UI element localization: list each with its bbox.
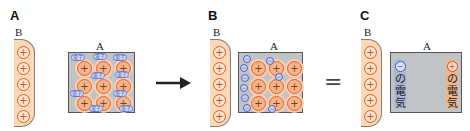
positive-charge-icon: +	[287, 61, 302, 76]
conductor-a-label: A	[270, 40, 278, 52]
electron-icon: −	[241, 94, 249, 102]
positive-charge-icon: +	[17, 94, 30, 107]
free-electron-icon: 電子	[71, 54, 85, 61]
conductor-b-label: B	[364, 26, 371, 38]
positive-charge-icon: +	[17, 78, 30, 91]
conductor-a: + + + + + + + + + − − − − − − − − −	[238, 52, 303, 113]
positive-charge-icon: +	[77, 61, 92, 76]
conductor-a-label: A	[96, 40, 104, 52]
free-electron-icon: 電子	[91, 72, 105, 79]
positive-charge-icon: +	[364, 94, 377, 107]
conductor-a-label: A	[423, 40, 431, 52]
positive-charge-icon: +	[251, 96, 266, 111]
positive-charge-region: + の 電 気	[446, 59, 458, 109]
equals-sign: =	[324, 73, 342, 91]
positive-sign-icon: +	[447, 61, 458, 72]
positive-charge-icon: +	[17, 46, 30, 59]
positive-charge-icon: +	[287, 96, 302, 111]
positive-charge-icon: +	[213, 110, 226, 123]
free-electron-icon: 電子	[119, 105, 133, 112]
conductor-a: + + + + + + + + + 電子 電子 電子 電子 電子 電子 電子 電…	[68, 52, 135, 113]
free-electron-icon: 電子	[113, 54, 127, 61]
positive-text: 気	[447, 98, 458, 110]
positive-charge-icon: +	[364, 78, 377, 91]
positive-charge-icon: +	[251, 61, 266, 76]
conductor-b: + + + + +	[361, 39, 382, 127]
positive-charge-icon: +	[17, 110, 30, 123]
electron-icon: −	[240, 64, 248, 72]
negative-text: 気	[395, 98, 406, 110]
positive-charge-icon: +	[213, 94, 226, 107]
free-electron-icon: 電子	[89, 105, 103, 112]
positive-charge-icon: +	[251, 79, 266, 94]
panel-label-a: A	[10, 8, 19, 23]
positive-charge-icon: +	[287, 79, 302, 94]
electron-icon: −	[243, 55, 251, 63]
conductor-b: + + + + +	[210, 39, 231, 127]
panel-label-c: C	[360, 8, 369, 23]
positive-charge-icon: +	[96, 79, 111, 94]
electron-icon: −	[266, 57, 274, 65]
positive-charge-icon: +	[364, 46, 377, 59]
positive-charge-icon: +	[17, 62, 30, 75]
conductor-b-label: B	[15, 26, 22, 38]
electron-icon: −	[243, 104, 251, 112]
electron-icon: −	[241, 74, 249, 82]
negative-charge-region: − の 電 気	[394, 59, 406, 109]
free-electron-icon: 電子	[113, 90, 127, 97]
positive-charge-icon: +	[213, 46, 226, 59]
free-electron-icon: 電子	[93, 53, 107, 60]
transition-arrow-icon	[156, 75, 192, 89]
positive-charge-icon: +	[364, 62, 377, 75]
electron-icon: −	[240, 84, 248, 92]
conductor-b: + + + + +	[14, 39, 35, 127]
positive-charge-icon: +	[364, 110, 377, 123]
conductor-b-label: B	[213, 26, 220, 38]
conductor-a: − の 電 気 + の 電 気	[390, 52, 462, 113]
positive-charge-icon: +	[213, 78, 226, 91]
electron-icon: −	[275, 73, 283, 81]
free-electron-icon: 電子	[70, 90, 84, 97]
free-electron-icon: 電子	[115, 71, 129, 78]
positive-charge-icon: +	[269, 79, 284, 94]
negative-sign-icon: −	[395, 61, 406, 72]
electron-icon: −	[268, 105, 276, 113]
panel-label-b: B	[208, 8, 217, 23]
positive-charge-icon: +	[213, 62, 226, 75]
